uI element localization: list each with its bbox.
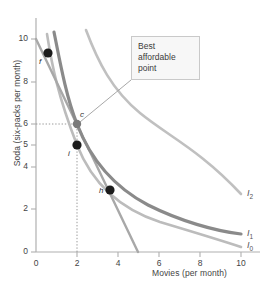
- annotation-line-3: point: [138, 63, 194, 74]
- annotation-line-1: Best: [138, 41, 194, 52]
- curve-label-I1-sub: 1: [250, 233, 254, 240]
- data-point-h: [105, 185, 114, 194]
- x-tick-4: 4: [112, 258, 124, 268]
- curve-label-I0: I0: [247, 240, 253, 252]
- annotation-line-2: affordable: [138, 52, 194, 63]
- x-tick-10: 10: [235, 258, 247, 268]
- point-label-f: f: [39, 57, 41, 66]
- y-axis-ticks: [31, 39, 36, 252]
- curve-label-I2: I2: [247, 188, 253, 200]
- x-tick-0: 0: [30, 258, 42, 268]
- point-label-h: h: [99, 186, 103, 195]
- x-axis-ticks: [77, 252, 241, 257]
- data-point-i: [72, 140, 81, 149]
- curve-label-I1: I1: [247, 228, 253, 240]
- y-tick-2: 2: [14, 203, 28, 213]
- x-tick-8: 8: [194, 258, 206, 268]
- data-point-f: [43, 48, 52, 57]
- x-tick-2: 2: [71, 258, 83, 268]
- annotation-best-affordable-point: Best affordable point: [131, 36, 200, 80]
- y-tick-10: 10: [8, 33, 28, 43]
- y-axis-title: Soda (six-packs per month): [12, 48, 22, 178]
- point-label-i: i: [68, 149, 70, 158]
- curve-label-I0-sub: 0: [250, 245, 254, 252]
- y-tick-0: 0: [14, 246, 28, 256]
- data-point-c: [73, 120, 81, 128]
- x-tick-6: 6: [153, 258, 165, 268]
- curve-label-I2-sub: 2: [250, 193, 254, 200]
- x-axis-title: Movies (per month): [152, 268, 227, 278]
- chart-figure: 0 2 4 5 6 8 10 0 2 4 6 8 10 Soda (six-pa…: [0, 0, 274, 285]
- callout-leader-line: [80, 80, 131, 122]
- point-label-c: c: [80, 110, 84, 119]
